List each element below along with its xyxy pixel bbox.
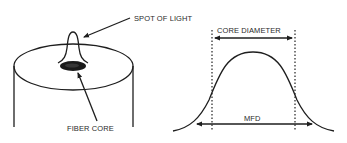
fiber-mfd-diagram: SPOT OF LIGHT FIBER CORE CORE DIAMETER M… bbox=[0, 0, 347, 143]
spot-of-light-label: SPOT OF LIGHT bbox=[134, 14, 193, 23]
core-diameter-label: CORE DIAMETER bbox=[217, 26, 281, 35]
fiber-core-arrow bbox=[78, 73, 97, 121]
light-spot-profile bbox=[58, 32, 88, 63]
fiber-illustration bbox=[14, 18, 133, 127]
fiber-core-label: FIBER CORE bbox=[67, 124, 114, 133]
spot-of-light-arrow bbox=[84, 18, 130, 37]
mfd-label: MFD bbox=[244, 114, 261, 123]
fiber-core-highlight bbox=[65, 64, 79, 68]
